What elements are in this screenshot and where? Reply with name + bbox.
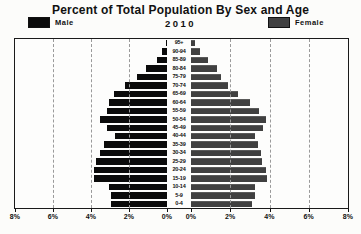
female-bar [191,99,250,105]
gridline-male-4pct [91,39,92,208]
age-group-label: 15-19 [167,174,191,182]
tick-right-3-mark [309,209,310,212]
female-bar [191,141,258,147]
pyramid-rows: 95+90-9485-8980-8475-7970-7465-6960-6455… [15,39,348,208]
age-group-label: 25-29 [167,157,191,165]
tick-right-2-label: 4% [264,213,275,220]
male-bar [100,150,167,156]
tick-right-3-label: 6% [303,213,314,220]
male-bar [111,192,167,198]
gridline-male-6pct [53,39,54,208]
age-row: 30-34 [15,149,348,157]
plot-area: 95+90-9485-8980-8475-7970-7465-6960-6455… [14,38,349,209]
age-group-label: 75-79 [167,73,191,81]
age-group-label: 45-49 [167,124,191,132]
male-bar [157,57,167,63]
age-group-label: 0-4 [167,200,191,208]
female-bar [191,82,228,88]
age-group-label: 80-84 [167,64,191,72]
tick-left-1-mark [53,209,54,212]
tick-left-3-label: 2% [124,213,135,220]
female-bar [191,133,255,139]
female-bar [191,125,263,131]
chart-title: Percent of Total Population By Sex and A… [0,3,361,17]
age-group-label: 60-64 [167,98,191,106]
legend-female: Female [268,17,324,28]
tick-left-0-label: 8% [10,213,21,220]
age-row: 95+ [15,39,348,47]
male-bar [107,108,167,114]
tick-right-0-label: 0% [186,213,197,220]
age-row: 80-84 [15,64,348,72]
age-group-label: 90-94 [167,47,191,55]
age-row: 40-44 [15,132,348,140]
age-row: 15-19 [15,174,348,182]
tick-left-4-mark [167,209,168,212]
age-row: 55-59 [15,107,348,115]
age-row: 85-89 [15,56,348,64]
male-bar [137,74,167,80]
age-row: 25-29 [15,157,348,165]
female-bar [191,175,267,181]
female-bar [191,108,259,114]
age-row: 20-24 [15,166,348,174]
female-bar [191,40,195,46]
age-group-label: 85-89 [167,56,191,64]
male-bar [115,133,167,139]
female-bar [191,65,217,71]
female-bar [191,57,208,63]
tick-left-1-label: 6% [48,213,59,220]
female-bar [191,116,266,122]
age-group-label: 40-44 [167,132,191,140]
age-group-label: 70-74 [167,81,191,89]
male-bar [109,184,167,190]
age-row: 10-14 [15,183,348,191]
male-bar [100,116,167,122]
age-row: 5-9 [15,191,348,199]
age-group-label: 5-9 [167,191,191,199]
tick-right-2-mark [270,209,271,212]
legend-female-label: Female [295,18,324,27]
tick-right-4-mark [348,209,349,212]
male-bar [114,91,167,97]
age-row: 50-54 [15,115,348,123]
tick-left-0-mark [15,209,16,212]
male-bar [109,99,167,105]
female-bar [191,48,200,54]
female-bar [191,150,261,156]
age-row: 35-39 [15,140,348,148]
male-bar [146,65,167,71]
age-row: 0-4 [15,200,348,208]
female-bar [191,158,262,164]
age-group-label: 95+ [167,39,191,47]
age-row: 45-49 [15,124,348,132]
tick-left-2-label: 4% [86,213,97,220]
male-bar [125,82,167,88]
male-bar [104,141,167,147]
age-group-label: 55-59 [167,107,191,115]
tick-right-1-mark [230,209,231,212]
age-row: 60-64 [15,98,348,106]
tick-right-4-label: 8% [343,213,354,220]
gridline-female-4pct [270,39,271,208]
female-swatch-icon [268,17,290,28]
female-bar [191,74,221,80]
age-group-label: 65-69 [167,90,191,98]
male-bar [96,158,167,164]
tick-left-3-mark [129,209,130,212]
gridline-male-2pct [129,39,130,208]
age-group-label: 20-24 [167,166,191,174]
age-group-label: 35-39 [167,140,191,148]
tick-right-0-mark [191,209,192,212]
age-group-label: 50-54 [167,115,191,123]
male-bar [94,175,167,181]
tick-right-1-label: 2% [225,213,236,220]
male-bar [107,125,167,131]
male-bar [166,40,167,46]
female-bar [191,201,252,207]
age-row: 65-69 [15,90,348,98]
age-row: 90-94 [15,47,348,55]
tick-left-4-label: 0% [162,213,173,220]
tick-left-2-mark [91,209,92,212]
age-group-label: 10-14 [167,183,191,191]
